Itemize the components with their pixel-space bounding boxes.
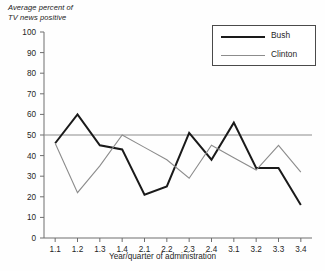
legend-entry-clinton: Clinton bbox=[213, 47, 317, 65]
y-tick-label: 100 bbox=[22, 28, 36, 37]
y-tick-label: 90 bbox=[27, 49, 37, 58]
y-axis: 0102030405060708090100 bbox=[22, 28, 44, 243]
y-tick-label: 0 bbox=[31, 234, 36, 243]
y-tick-label: 30 bbox=[27, 172, 37, 181]
x-axis-label: Year/quarter of administration bbox=[0, 252, 325, 261]
y-tick-label: 80 bbox=[27, 69, 37, 78]
clinton-line-swatch bbox=[221, 55, 265, 56]
y-tick-label: 10 bbox=[27, 213, 37, 222]
y-tick-label: 40 bbox=[27, 152, 37, 161]
bush-line-swatch bbox=[221, 36, 265, 38]
y-tick-label: 50 bbox=[27, 131, 37, 140]
y-tick-label: 60 bbox=[27, 110, 37, 119]
y-tick-label: 20 bbox=[27, 193, 37, 202]
legend: Bush Clinton bbox=[212, 25, 316, 66]
legend-label-bush: Bush bbox=[271, 30, 290, 40]
chart-container: Average percent of TV news positive 0102… bbox=[0, 0, 325, 271]
data-series-lines bbox=[55, 114, 301, 205]
legend-entry-bush: Bush bbox=[213, 28, 317, 46]
y-tick-label: 70 bbox=[27, 90, 37, 99]
legend-label-clinton: Clinton bbox=[271, 49, 297, 59]
series-line-bush bbox=[55, 114, 301, 205]
series-line-clinton bbox=[55, 135, 301, 193]
